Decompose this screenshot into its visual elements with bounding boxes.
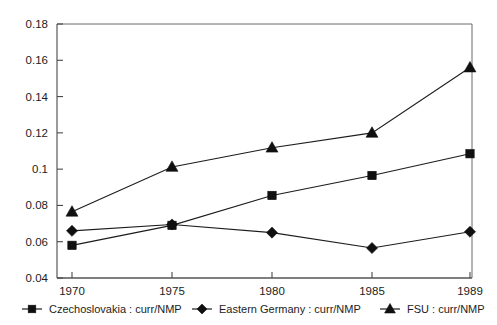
- legend-label: Eastern Germany : curr/NMP: [219, 303, 361, 315]
- y-tick-label: 0.14: [26, 91, 49, 103]
- x-tick-label: 1989: [457, 285, 483, 297]
- marker-square: [466, 150, 474, 158]
- x-tick-label: 1985: [359, 285, 385, 297]
- y-tick-label: 0.16: [26, 54, 48, 66]
- chart-figure: 0.180.160.140.120.10.080.060.04 19701975…: [0, 0, 497, 325]
- x-tick-label: 1980: [259, 285, 285, 297]
- marker-square: [28, 305, 36, 313]
- y-tick-label: 0.12: [26, 127, 48, 139]
- y-tick-label: 0.04: [26, 272, 49, 284]
- chart-legend: Czechoslovakia : curr/NMPEastern Germany…: [22, 303, 485, 315]
- x-tick-label: 1970: [59, 285, 85, 297]
- y-tick-label: 0.06: [26, 236, 48, 248]
- marker-square: [68, 241, 76, 249]
- y-tick-label: 0.18: [26, 18, 48, 30]
- y-tick-label: 0.1: [32, 163, 48, 175]
- chart-background: [0, 0, 497, 325]
- marker-square: [368, 171, 376, 179]
- y-tick-label: 0.08: [26, 199, 48, 211]
- x-tick-label: 1975: [159, 285, 185, 297]
- legend-label: FSU : curr/NMP: [407, 303, 485, 315]
- legend-label: Czechoslovakia : curr/NMP: [49, 303, 182, 315]
- line-chart: 0.180.160.140.120.10.080.060.04 19701975…: [0, 0, 497, 325]
- marker-square: [268, 191, 276, 199]
